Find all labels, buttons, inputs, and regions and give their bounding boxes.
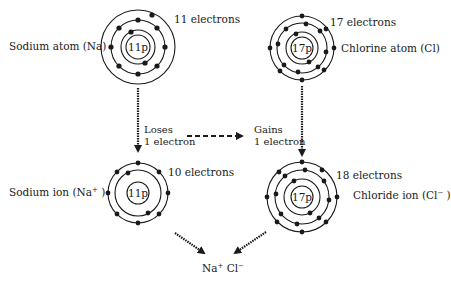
sodium-atom-nucleus-label: 11p bbox=[128, 41, 148, 53]
sodium-ion-nucleus-label: 11p bbox=[128, 187, 148, 199]
chloride-ion-to-product-arrow bbox=[235, 232, 266, 253]
product-formula: Na+ Cl− bbox=[202, 262, 244, 274]
chloride-ion-nucleus-label: 17p bbox=[292, 191, 312, 203]
loses-label: Loses1 electron bbox=[144, 124, 195, 148]
chlorine-atom-label: Chlorine atom (Cl) bbox=[341, 42, 440, 54]
gains-label: Gains1 electron bbox=[254, 124, 305, 148]
chlorine-atom-nucleus-label: 17p bbox=[292, 42, 312, 54]
sodium-atom-label: Sodium atom (Na) bbox=[9, 40, 106, 52]
sodium-atom-electron-count: 11 electrons bbox=[174, 13, 240, 25]
sodium-ion-label: Sodium ion (Na+ ) bbox=[9, 186, 105, 198]
sodium-ion-electron-count: 10 electrons bbox=[168, 166, 234, 178]
chlorine-atom-electron-count: 17 electrons bbox=[330, 16, 396, 28]
sodium-ion-to-product-arrow bbox=[175, 233, 204, 253]
chloride-ion-label: Chloride ion (Cl− ) bbox=[353, 189, 451, 201]
chloride-ion-electron-count: 18 electrons bbox=[336, 169, 402, 181]
